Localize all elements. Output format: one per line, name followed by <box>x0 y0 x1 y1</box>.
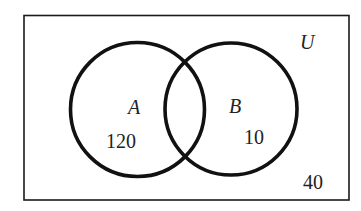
set-b-label: B <box>229 95 241 117</box>
venn-diagram: U A 120 B 10 40 <box>0 0 361 211</box>
set-b-only-count: 10 <box>244 126 264 148</box>
set-a-label: A <box>126 96 141 118</box>
universe-label: U <box>300 31 316 53</box>
set-a-only-count: 120 <box>106 130 136 152</box>
outside-count: 40 <box>303 171 323 193</box>
